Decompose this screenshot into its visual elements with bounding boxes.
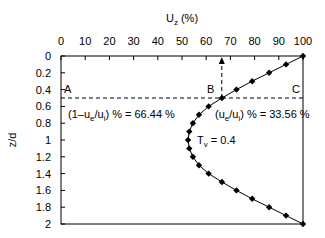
x-tick-label: 30	[127, 35, 139, 47]
diamond-marker-icon	[190, 120, 196, 126]
x-tick-label: 80	[248, 35, 260, 47]
y-tick-label: 1.8	[36, 201, 51, 213]
diamond-marker-icon	[283, 212, 289, 218]
diamond-marker-icon	[249, 78, 255, 84]
diamond-marker-icon	[249, 196, 255, 202]
x-tick-label: 90	[273, 35, 285, 47]
x-axis-title: Uz (%)	[166, 12, 198, 27]
diamond-marker-icon	[219, 179, 225, 185]
y-tick-label: 0.2	[36, 67, 51, 79]
diamond-marker-icon	[186, 128, 192, 134]
x-tick-label: 60	[200, 35, 212, 47]
label-point-a: A	[64, 83, 72, 95]
y-tick-label: 1.4	[36, 168, 51, 180]
diamond-marker-icon	[283, 61, 289, 67]
y-axis-title: z/d	[6, 133, 18, 148]
consolidation-chart: 0102030405060708090100 00.20.40.60.811.2…	[0, 0, 325, 238]
x-tick-label: 50	[176, 35, 188, 47]
annotation-left-percentage: (1–ue/ui) % = 66.44 %	[68, 108, 175, 123]
y-tick-label: 2	[45, 218, 51, 230]
arrow-head-icon	[219, 57, 225, 64]
x-tick-label: 40	[152, 35, 164, 47]
x-tick-label: 0	[58, 35, 64, 47]
plot-frame	[61, 56, 303, 224]
x-tick-label: 70	[224, 35, 236, 47]
x-tick-label: 100	[294, 35, 312, 47]
label-point-b: B	[207, 83, 214, 95]
y-tick-label: 0	[45, 50, 51, 62]
diamond-marker-icon	[266, 70, 272, 76]
y-tick-label: 0.4	[36, 84, 51, 96]
diamond-marker-icon	[219, 95, 225, 101]
y-tick-label: 1.6	[36, 184, 51, 196]
y-tick-label: 0.8	[36, 117, 51, 129]
diamond-marker-icon	[300, 53, 306, 59]
diamond-marker-icon	[300, 221, 306, 227]
y-tick-label: 1.2	[36, 151, 51, 163]
diamond-marker-icon	[266, 204, 272, 210]
x-tick-label: 20	[103, 35, 115, 47]
x-tick-label: 10	[79, 35, 91, 47]
diamond-marker-icon	[185, 137, 191, 143]
y-tick-label: 0.6	[36, 100, 51, 112]
diamond-marker-icon	[233, 187, 239, 193]
annotation-right-percentage: (ue/ui) % = 33.56 %	[215, 108, 310, 123]
label-point-c: C	[292, 83, 300, 95]
diamond-marker-icon	[190, 154, 196, 160]
y-tick-label: 1	[45, 134, 51, 146]
diamond-marker-icon	[186, 145, 192, 151]
diamond-marker-icon	[233, 86, 239, 92]
annotation-time-factor: Tv = 0.4	[197, 134, 236, 149]
